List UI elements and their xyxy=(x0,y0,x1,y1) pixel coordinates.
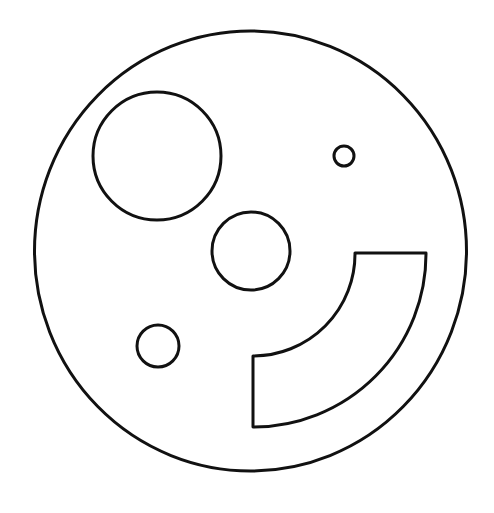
shapes-diagram xyxy=(0,0,494,513)
small-circle xyxy=(137,325,179,367)
tiny-circle xyxy=(334,146,354,166)
large-circle xyxy=(93,92,221,220)
diagram-canvas xyxy=(0,0,494,513)
medium-circle xyxy=(212,212,290,290)
outer-circle xyxy=(35,31,467,471)
